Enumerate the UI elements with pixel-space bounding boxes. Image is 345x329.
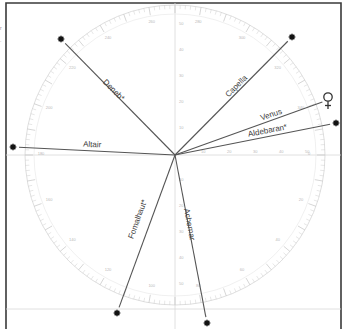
scale-tick bbox=[239, 286, 241, 290]
scale-tick bbox=[210, 9, 211, 13]
scale-number: 300 bbox=[239, 35, 246, 40]
scale-tick bbox=[43, 85, 47, 87]
label-altair: Altair bbox=[83, 140, 102, 150]
scale-tick bbox=[79, 264, 84, 270]
scale-tick bbox=[246, 25, 250, 32]
scale-tick bbox=[60, 246, 66, 251]
scale-tick bbox=[266, 264, 271, 270]
axis-scale-number: 20 bbox=[179, 203, 184, 208]
axis-scale-number: 30 bbox=[253, 149, 258, 154]
scale-tick bbox=[318, 185, 322, 186]
scale-tick bbox=[119, 16, 120, 20]
ray-venus bbox=[175, 102, 322, 155]
scale-tick bbox=[144, 298, 145, 302]
scale-tick bbox=[154, 300, 155, 304]
scale-tick bbox=[230, 290, 231, 294]
axis-scale-number: 40 bbox=[179, 47, 184, 52]
scale-number: 160 bbox=[46, 197, 53, 202]
scale-tick bbox=[230, 16, 231, 20]
scale-tick bbox=[40, 89, 44, 91]
scale-tick bbox=[299, 76, 302, 78]
scale-tick bbox=[27, 180, 35, 181]
scale-tick bbox=[252, 279, 254, 282]
scale-tick bbox=[265, 37, 267, 40]
scale-tick bbox=[315, 195, 319, 196]
scale-number: 280 bbox=[195, 19, 202, 24]
scale-number: 220 bbox=[69, 65, 76, 70]
scale-tick bbox=[124, 14, 127, 22]
scale-tick bbox=[26, 175, 30, 176]
scale-tick bbox=[298, 226, 305, 230]
scale-tick bbox=[114, 288, 116, 292]
scale-tick bbox=[36, 210, 40, 211]
scale-tick bbox=[308, 204, 316, 207]
scale-tick bbox=[265, 270, 267, 273]
frame-border bbox=[6, 3, 341, 329]
scale-tick bbox=[149, 7, 150, 15]
scale-tick bbox=[139, 9, 140, 13]
scale-tick bbox=[205, 298, 206, 302]
scale-tick bbox=[315, 114, 319, 115]
scale-number: 260 bbox=[148, 19, 155, 24]
scale-tick bbox=[38, 94, 42, 96]
scale-tick bbox=[71, 260, 74, 263]
scale-tick bbox=[315, 129, 323, 130]
scale-tick bbox=[26, 134, 30, 135]
scale-tick bbox=[210, 297, 211, 301]
scale-tick bbox=[257, 276, 259, 279]
scale-tick bbox=[280, 256, 283, 259]
scale-number: 60 bbox=[240, 267, 245, 272]
axis-scale-number: 40 bbox=[279, 149, 284, 154]
scale-tick bbox=[83, 270, 85, 273]
scale-tick bbox=[119, 290, 120, 294]
star-icon bbox=[204, 320, 211, 327]
scale-tick bbox=[273, 263, 276, 266]
scale-tick bbox=[276, 260, 279, 263]
scale-tick bbox=[45, 226, 52, 230]
scale-tick bbox=[234, 18, 236, 22]
star-icon bbox=[289, 34, 296, 41]
scale-tick bbox=[36, 99, 40, 100]
scale-tick bbox=[220, 294, 221, 298]
scale-tick bbox=[64, 55, 67, 58]
scale-tick bbox=[246, 278, 250, 285]
scale-tick bbox=[67, 51, 70, 54]
scale-tick bbox=[290, 63, 293, 65]
scale-tick bbox=[27, 129, 35, 130]
scale-tick bbox=[220, 12, 221, 16]
axis-scale-number: 50 bbox=[179, 21, 184, 26]
scale-tick bbox=[29, 190, 33, 191]
scale-tick bbox=[318, 124, 322, 125]
scale-tick bbox=[51, 237, 54, 239]
scale-tick bbox=[67, 256, 70, 259]
scale-tick bbox=[96, 28, 98, 31]
scale-tick bbox=[38, 214, 42, 216]
scale-tick bbox=[304, 85, 308, 87]
axis-scale-number: 20 bbox=[179, 99, 184, 104]
scale-tick bbox=[283, 55, 286, 58]
scale-number: 200 bbox=[46, 105, 53, 110]
scale-tick bbox=[32, 200, 36, 201]
scale-tick bbox=[79, 40, 84, 46]
scale-tick bbox=[298, 80, 305, 84]
venus-icon bbox=[324, 93, 332, 109]
axis-scale-number: 30 bbox=[179, 73, 184, 78]
scale-tick bbox=[252, 28, 254, 31]
scale-tick bbox=[296, 71, 299, 73]
scale-tick bbox=[40, 219, 44, 221]
label-achernar: Achernar bbox=[182, 208, 197, 242]
scale-tick bbox=[200, 7, 201, 15]
scale-tick bbox=[154, 6, 155, 10]
scale-tick bbox=[284, 246, 290, 251]
axis-scale-labels: 101010202020303030404040505050 bbox=[179, 21, 310, 286]
scale-tick bbox=[261, 34, 263, 37]
scale-tick bbox=[57, 245, 60, 247]
scale-tick bbox=[114, 18, 116, 22]
scale-tick bbox=[91, 31, 93, 34]
scale-tick bbox=[109, 20, 111, 24]
scale-tick bbox=[224, 14, 227, 22]
scale-tick bbox=[28, 124, 32, 125]
scale-tick bbox=[310, 99, 314, 100]
star-icon bbox=[114, 310, 121, 317]
scale-tick bbox=[34, 104, 42, 107]
